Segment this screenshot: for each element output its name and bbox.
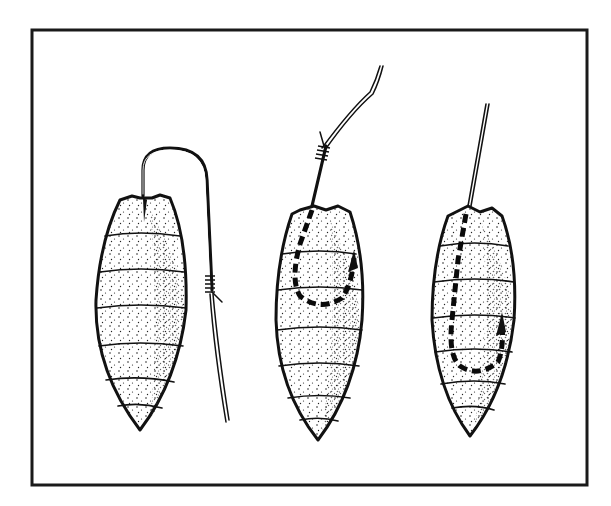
grub-step-2 — [276, 66, 383, 440]
bait-hooking-diagram — [0, 0, 611, 506]
fishing-line — [468, 104, 486, 206]
grub-step-1 — [96, 148, 229, 430]
grub-step-3 — [432, 104, 515, 436]
fishing-line — [210, 294, 226, 422]
fishing-line — [322, 66, 380, 148]
